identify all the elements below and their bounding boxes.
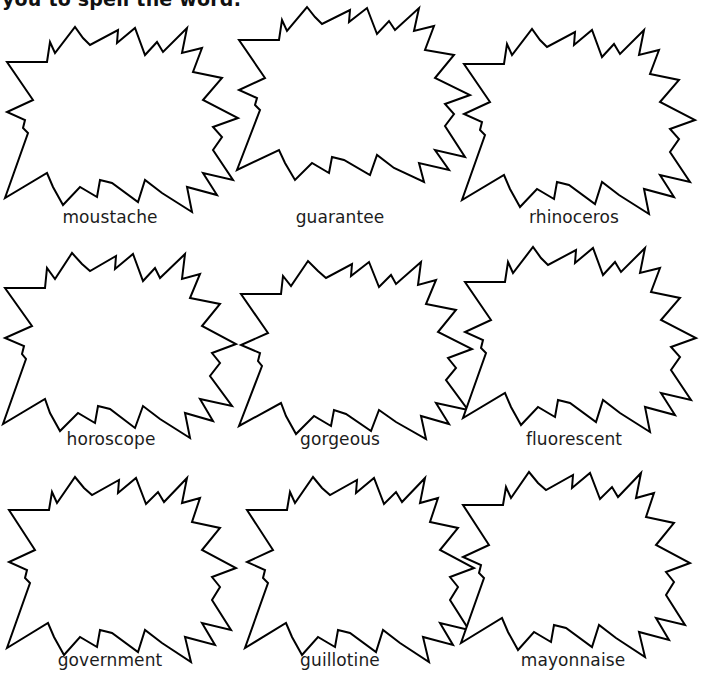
starburst-answer-box-9[interactable] [456, 465, 701, 665]
starburst-answer-box-2[interactable] [232, 0, 477, 200]
word-label-horoscope: horoscope [67, 429, 156, 449]
starburst-answer-box-3[interactable] [457, 22, 702, 222]
starburst-answer-box-6[interactable] [458, 240, 703, 440]
starburst-outline-icon [232, 0, 477, 200]
word-label-government: government [58, 650, 163, 670]
starburst-answer-box-8[interactable] [240, 470, 485, 670]
starburst-outline-icon [456, 465, 701, 665]
word-label-gorgeous: gorgeous [300, 429, 380, 449]
instruction-text: you to spell the word. [2, 0, 241, 10]
starburst-answer-box-4[interactable] [0, 246, 245, 446]
word-label-mayonnaise: mayonnaise [521, 650, 625, 670]
starburst-outline-icon [0, 20, 245, 220]
starburst-answer-box-5[interactable] [236, 254, 481, 454]
word-label-moustache: moustache [62, 207, 157, 227]
word-label-fluorescent: fluorescent [526, 429, 622, 449]
starburst-outline-icon [240, 470, 485, 670]
starburst-answer-box-1[interactable] [0, 20, 245, 220]
starburst-outline-icon [236, 254, 481, 454]
word-label-rhinoceros: rhinoceros [529, 207, 619, 227]
starburst-outline-icon [0, 246, 245, 446]
starburst-outline-icon [2, 470, 247, 670]
starburst-outline-icon [457, 22, 702, 222]
word-label-guarantee: guarantee [296, 207, 385, 227]
word-label-guillotine: guillotine [300, 650, 380, 670]
starburst-answer-box-7[interactable] [2, 470, 247, 670]
starburst-outline-icon [458, 240, 703, 440]
